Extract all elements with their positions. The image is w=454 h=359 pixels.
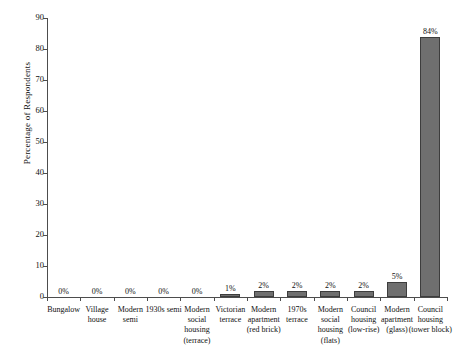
bar (320, 291, 340, 297)
y-axis-tick-mark (43, 18, 48, 19)
bar-value-label: 84% (410, 27, 450, 36)
y-axis-line (47, 18, 48, 298)
y-axis-tick-label: 60 (36, 105, 45, 115)
bar (220, 294, 240, 297)
category-label-line: Council (408, 305, 453, 315)
bar (354, 291, 374, 297)
y-axis-tick-mark (43, 173, 48, 174)
y-axis-tick-label: 40 (36, 167, 45, 177)
y-axis-tick-label: 50 (36, 136, 45, 146)
y-axis-tick-mark (43, 266, 48, 267)
y-axis-tick-label: 90 (36, 12, 45, 22)
x-axis-tick-mark (114, 297, 115, 301)
category-label-line: (red brick) (241, 325, 286, 335)
y-axis-tick-label: 80 (36, 43, 45, 53)
x-axis-tick-mark (147, 297, 148, 301)
bar (420, 37, 440, 297)
x-axis-tick-mark (80, 297, 81, 301)
category-label-line: (flats) (308, 336, 353, 346)
x-axis-category-label: Councilhousing(tower block) (408, 305, 453, 336)
category-label-line: semi (108, 315, 153, 325)
x-axis-tick-mark (314, 297, 315, 301)
x-axis-tick-mark (180, 297, 181, 301)
category-label-line: (tower block) (408, 325, 453, 335)
y-axis-tick-mark (43, 142, 48, 143)
category-label-line: (terrace) (174, 336, 219, 346)
bar (387, 282, 407, 298)
category-label-line: housing (408, 315, 453, 325)
y-axis-tick-label: 20 (36, 229, 45, 239)
bar-value-label: 2% (344, 281, 384, 290)
y-axis-tick-mark (43, 111, 48, 112)
x-axis-tick-mark (347, 297, 348, 301)
x-axis-tick-mark (47, 297, 48, 301)
x-axis-tick-mark (447, 297, 448, 301)
bar-value-label: 5% (377, 272, 417, 281)
y-axis-title: Percentage of Respondents (22, 28, 32, 198)
y-axis-tick-label: 30 (36, 198, 45, 208)
x-axis-tick-mark (280, 297, 281, 301)
y-axis-tick-mark (43, 204, 48, 205)
bar (254, 291, 274, 297)
x-axis-tick-mark (414, 297, 415, 301)
bar-chart: Percentage of Respondents 01020304050607… (0, 0, 454, 359)
y-axis-tick-mark (43, 80, 48, 81)
y-axis-tick-label: 10 (36, 260, 45, 270)
bar (287, 291, 307, 297)
y-axis-tick-mark (43, 235, 48, 236)
x-axis-tick-mark (214, 297, 215, 301)
x-axis-tick-mark (380, 297, 381, 301)
y-axis-tick-mark (43, 49, 48, 50)
x-axis-tick-mark (247, 297, 248, 301)
y-axis-tick-label: 70 (36, 74, 45, 84)
